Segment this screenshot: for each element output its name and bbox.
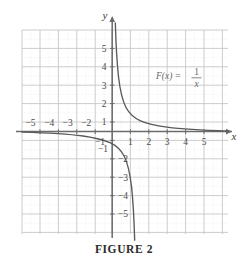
y-tick-label-neg3: −3 [118, 173, 128, 183]
x-tick-label-neg4: −4 [44, 118, 54, 128]
y-axis-label: y [102, 9, 108, 21]
y-tick-label-neg4: −4 [118, 191, 128, 201]
x-tick-label-2: 2 [146, 137, 151, 147]
y-tick-label-4: 4 [102, 62, 107, 72]
function-label: F(x) = [155, 71, 181, 82]
y-tick-label-5: 5 [102, 44, 107, 54]
fraction-denominator: x [193, 79, 199, 89]
x-tick-label-neg2: −2 [81, 118, 91, 128]
y-axis-arrow [109, 16, 115, 22]
figure-caption: FIGURE 2 [0, 243, 248, 255]
graph-of-reciprocal-function: −5 −4 −3 −2 −1 1 2 3 4 5 5 4 3 2 1 −1 −2… [0, 0, 248, 267]
fraction-numerator: 1 [194, 67, 199, 77]
x-tick-label-neg5: −5 [25, 118, 35, 128]
y-tick-label-neg5: −5 [118, 209, 128, 219]
figure-container: −5 −4 −3 −2 −1 1 2 3 4 5 5 4 3 2 1 −1 −2… [0, 0, 248, 267]
x-tick-label-3: 3 [165, 137, 170, 147]
y-tick-label-3: 3 [102, 81, 107, 91]
y-tick-label-neg1: −1 [98, 144, 108, 154]
y-tick-label-2: 2 [102, 99, 107, 109]
y-tick-label-neg2: −2 [118, 154, 128, 164]
x-tick-label-1: 1 [128, 137, 133, 147]
x-tick-label-4: 4 [183, 137, 188, 147]
curve-branch-negative [22, 132, 135, 240]
y-tick-label-1: 1 [102, 117, 107, 127]
x-axis-label: x [231, 130, 237, 142]
x-tick-label-neg3: −3 [63, 118, 73, 128]
x-tick-label-5: 5 [202, 137, 207, 147]
function-annotation: F(x) = 1 x [155, 67, 202, 89]
